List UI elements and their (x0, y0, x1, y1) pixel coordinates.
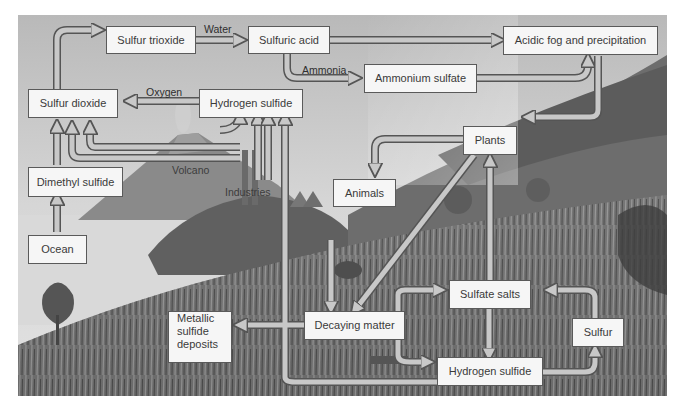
label-ammonia: Ammonia (302, 64, 346, 76)
label-oxygen: Oxygen (146, 86, 182, 98)
metallic-line-3: deposits (177, 338, 218, 351)
node-sulfur: Sulfur (572, 318, 624, 347)
node-plants: Plants (463, 126, 517, 155)
label-volcano: Volcano (172, 164, 209, 176)
node-decaying-matter: Decaying matter (304, 311, 405, 340)
node-dimethyl-sulfide: Dimethyl sulfide (28, 167, 123, 197)
node-sulfate-salts: Sulfate salts (449, 280, 531, 309)
label-water: Water (204, 23, 232, 35)
node-hydrogen-sulfide-top: Hydrogen sulfide (199, 89, 303, 118)
node-ammonium-sulfate: Ammonium sulfate (364, 64, 477, 93)
label-industries: Industries (225, 186, 271, 198)
node-sulfur-dioxide: Sulfur dioxide (28, 89, 118, 118)
node-animals: Animals (333, 179, 396, 207)
node-acidic-fog: Acidic fog and precipitation (503, 26, 658, 55)
node-hydrogen-sulfide-bottom: Hydrogen sulfide (437, 357, 543, 386)
metallic-line-1: Metallic (177, 312, 214, 325)
node-sulfuric-acid: Sulfuric acid (248, 26, 330, 54)
node-sulfur-trioxide: Sulfur trioxide (106, 26, 196, 54)
node-metallic-sulfide-deposits: Metallic sulfide deposits (168, 311, 232, 363)
node-ocean: Ocean (28, 235, 87, 264)
metallic-line-2: sulfide (177, 325, 209, 338)
